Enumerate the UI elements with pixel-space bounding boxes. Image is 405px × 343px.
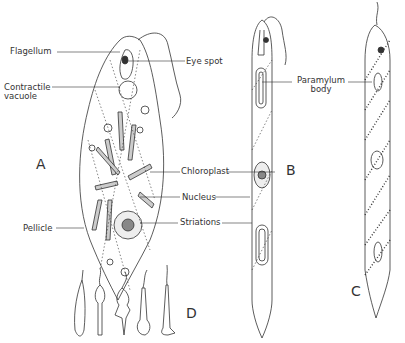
label-flagellum: Flagellum xyxy=(10,47,51,56)
label-paramylum-body: Paramylum body xyxy=(297,76,345,94)
label-contractile-line2: vacuole xyxy=(4,91,37,101)
label-eye-spot: Eye spot xyxy=(186,57,223,66)
figure-c xyxy=(365,2,390,318)
label-pellicle: Pellicle xyxy=(23,224,52,233)
label-contractile-vacuole: Contractile vacuole xyxy=(4,83,51,101)
figure-a xyxy=(80,33,181,300)
figure-b xyxy=(252,17,286,338)
panel-letter-d: D xyxy=(186,305,197,321)
panel-letter-a: A xyxy=(36,156,46,172)
label-paramylum-line2: body xyxy=(310,84,331,94)
label-nucleus: Nucleus xyxy=(182,193,216,202)
label-striations: Striations xyxy=(180,218,221,227)
panel-letter-c: C xyxy=(351,283,361,299)
label-chloroplast: Chloroplast xyxy=(181,167,229,176)
panel-letter-b: B xyxy=(286,162,296,178)
